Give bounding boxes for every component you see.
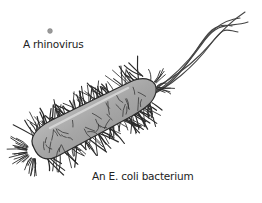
pilus [121,66,123,87]
flagellum [152,18,240,92]
rhinovirus-label: A rhinovirus [23,38,83,50]
rhinovirus-particle [48,29,53,34]
ecoli-label: An E. coli bacterium [92,170,193,182]
rhinovirus [48,29,53,34]
pilus [137,56,138,80]
pilus [108,82,114,91]
pilus [152,103,162,110]
flagella [145,12,248,98]
